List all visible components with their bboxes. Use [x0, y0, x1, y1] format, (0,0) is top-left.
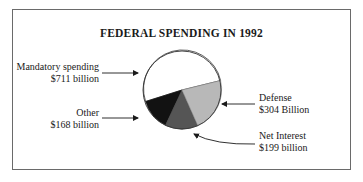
label-net-interest-value: $199 billion — [259, 142, 349, 154]
label-mandatory-name: Mandatory spending — [4, 61, 99, 73]
pie-chart — [0, 0, 363, 182]
label-mandatory: Mandatory spending $711 billion — [4, 61, 99, 85]
label-defense-name: Defense — [259, 92, 349, 104]
label-defense: Defense $304 Billion — [259, 92, 349, 116]
label-mandatory-value: $711 billion — [4, 73, 99, 85]
label-other: Other $168 billion — [4, 107, 99, 131]
label-defense-value: $304 Billion — [259, 104, 349, 116]
label-other-value: $168 billion — [4, 119, 99, 131]
label-net-interest-name: Net Interest — [259, 130, 349, 142]
label-net-interest: Net Interest $199 billion — [259, 130, 349, 154]
arrow-net-interest — [194, 134, 255, 144]
label-other-name: Other — [4, 107, 99, 119]
